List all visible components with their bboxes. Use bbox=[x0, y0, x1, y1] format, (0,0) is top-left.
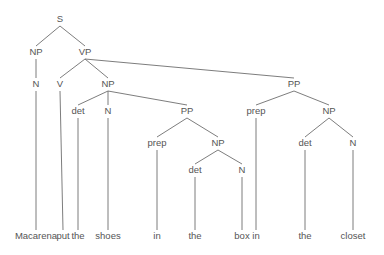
edge-VP-NP2 bbox=[85, 59, 108, 78]
word-w10: closet bbox=[341, 230, 366, 241]
node-VP: VP bbox=[79, 46, 92, 57]
edge-V-w2 bbox=[60, 91, 63, 230]
node-N1: N bbox=[33, 78, 40, 89]
word-w9: the bbox=[298, 230, 311, 241]
node-NP4: NP bbox=[322, 105, 335, 116]
word-w2: put bbox=[56, 230, 70, 241]
node-PP2: PP bbox=[288, 78, 301, 89]
word-w3: the bbox=[71, 230, 84, 241]
edge-NP2-PP1 bbox=[108, 91, 187, 105]
node-prep2: prep bbox=[246, 105, 265, 116]
edge-NP4-det3 bbox=[305, 118, 329, 137]
edge-NP2-det1 bbox=[78, 91, 108, 105]
node-prep1: prep bbox=[147, 137, 166, 148]
node-NP1: NP bbox=[29, 46, 42, 57]
node-N4: N bbox=[350, 137, 357, 148]
word-w7: box bbox=[234, 230, 250, 241]
node-S: S bbox=[57, 13, 63, 24]
node-det3: det bbox=[298, 137, 312, 148]
edge-NP3-N3 bbox=[218, 150, 242, 164]
edge-NP4-N4 bbox=[329, 118, 353, 137]
node-N3: N bbox=[239, 164, 246, 175]
node-V: V bbox=[57, 78, 64, 89]
word-w1: Macarena bbox=[15, 230, 58, 241]
node-det1: det bbox=[71, 105, 85, 116]
sentence-words: Macarenaputtheshoesintheboxinthecloset bbox=[15, 230, 366, 241]
edge-PP1-NP3 bbox=[187, 118, 218, 137]
word-w8: in bbox=[252, 230, 259, 241]
edge-S-NP1 bbox=[36, 26, 60, 46]
word-w4: shoes bbox=[95, 230, 121, 241]
tree-nodes: SNPVPNVNPPPdetNPPprepNPprepNPdetNdetN bbox=[29, 13, 356, 175]
node-PP1: PP bbox=[181, 105, 194, 116]
edge-PP1-prep1 bbox=[157, 118, 187, 137]
node-N2: N bbox=[105, 105, 112, 116]
edge-NP3-det2 bbox=[195, 150, 218, 164]
word-w6: the bbox=[188, 230, 201, 241]
edge-PP2-NP4 bbox=[294, 91, 329, 105]
node-det2: det bbox=[188, 164, 202, 175]
node-NP3: NP bbox=[211, 137, 224, 148]
edge-VP-PP2 bbox=[85, 59, 294, 78]
node-NP2: NP bbox=[101, 78, 114, 89]
parse-tree-diagram: SNPVPNVNPPPdetNPPprepNPprepNPdetNdetN Ma… bbox=[0, 0, 384, 255]
word-w5: in bbox=[153, 230, 160, 241]
edge-VP-V bbox=[60, 59, 85, 78]
edge-S-VP bbox=[60, 26, 85, 46]
edge-PP2-prep2 bbox=[256, 91, 294, 105]
